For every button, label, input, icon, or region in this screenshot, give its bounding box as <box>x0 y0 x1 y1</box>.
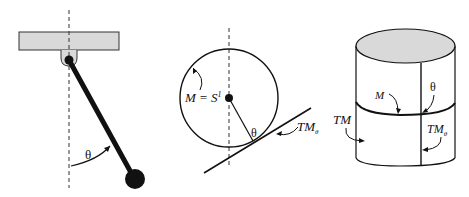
tangent-space-label: TMθ <box>297 119 319 136</box>
tangent-pointer-head <box>276 131 282 136</box>
diagram-canvas: θ M = S1 θ TMθ <box>0 0 469 197</box>
circle-panel: M = S1 θ TMθ <box>180 28 319 173</box>
angle-label: θ <box>85 147 91 162</box>
radius-line <box>229 98 253 141</box>
tangent-line <box>204 108 311 173</box>
manifold-pointer-head <box>193 68 197 74</box>
pendulum-panel: θ <box>19 10 145 189</box>
manifold-label: M = S1 <box>184 90 222 105</box>
fiber-label: TMθ <box>427 122 448 138</box>
cylinder-bottom-edge <box>356 158 455 166</box>
pendulum-bob <box>125 169 145 189</box>
manifold-pointer-head <box>396 108 401 114</box>
manifold-circle-M <box>356 102 455 115</box>
cylinder-panel: M θ TM TMθ <box>333 29 455 166</box>
angle-label: θ <box>251 126 257 140</box>
tangent-bundle-label: TM <box>333 112 352 127</box>
pendulum-rod <box>69 60 134 178</box>
angle-label: θ <box>430 80 436 94</box>
cylinder-top <box>356 29 455 63</box>
pivot-point <box>65 56 74 65</box>
bundle-pointer-head <box>359 138 365 143</box>
manifold-label: M <box>374 89 385 101</box>
fiber-pointer-head <box>422 147 428 152</box>
angle-pointer-head <box>422 108 428 113</box>
